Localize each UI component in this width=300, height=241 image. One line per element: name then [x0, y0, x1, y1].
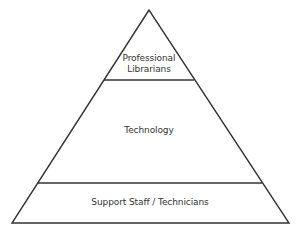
- level-professional-librarians: Professional Librarians: [109, 53, 189, 75]
- level-support-staff: Support Staff / Technicians: [70, 197, 230, 208]
- pyramid-outline: [12, 10, 289, 223]
- level-technology: Technology: [99, 125, 199, 136]
- level-label-line1: Professional: [109, 53, 189, 64]
- level-label-line2: Librarians: [109, 64, 189, 75]
